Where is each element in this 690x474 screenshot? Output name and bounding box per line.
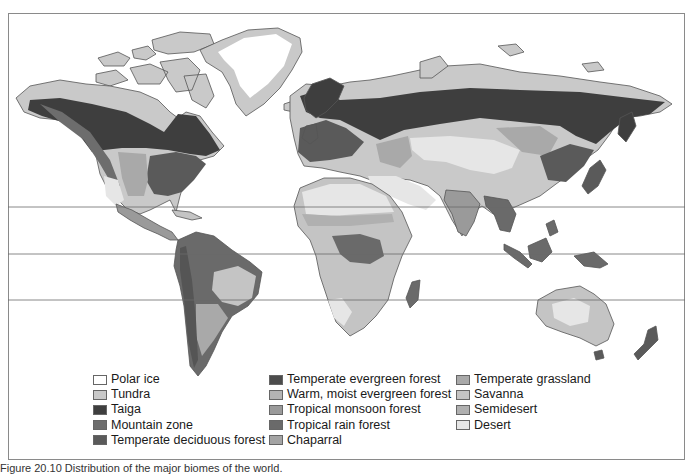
swatch-temperate-deciduous-forest	[93, 435, 107, 445]
swatch-semidesert	[456, 405, 470, 415]
swatch-warm-moist-evergreen-forest	[269, 390, 283, 400]
legend-column-2: Temperate evergreen forest Warm, moist e…	[269, 372, 451, 448]
swatch-tropical-monsoon-forest	[269, 405, 283, 415]
legend-item-polar-ice: Polar ice	[93, 372, 265, 387]
swatch-desert	[456, 420, 470, 430]
legend-item-taiga: Taiga	[93, 402, 265, 417]
japan	[582, 160, 606, 194]
legend-item-temperate-deciduous-forest: Temperate deciduous forest	[93, 433, 265, 448]
legend-item-savanna: Savanna	[456, 387, 591, 402]
legend-item-desert: Desert	[456, 418, 591, 433]
legend-item-mountain-zone: Mountain zone	[93, 418, 265, 433]
legend-item-semidesert: Semidesert	[456, 402, 591, 417]
swatch-savanna	[456, 390, 470, 400]
legend-item-tropical-rain-forest: Tropical rain forest	[269, 418, 451, 433]
figure-caption: Figure 20.10 Distribution of the major b…	[0, 462, 282, 474]
caribbean	[172, 210, 202, 220]
na-deciduous	[146, 152, 206, 196]
madagascar	[406, 280, 420, 308]
swatch-polar-ice	[93, 375, 107, 385]
swatch-temperate-evergreen-forest	[269, 375, 283, 385]
legend-item-temperate-evergreen-forest: Temperate evergreen forest	[269, 372, 451, 387]
tasmania	[594, 350, 604, 360]
borneo	[528, 238, 552, 262]
new-zealand	[634, 326, 658, 360]
swatch-temperate-grassland	[456, 375, 470, 385]
sumatra	[504, 244, 532, 268]
siberian-islands	[498, 44, 604, 72]
swatch-chaparral	[269, 435, 283, 445]
legend-item-tundra: Tundra	[93, 387, 265, 402]
swatch-mountain-zone	[93, 420, 107, 430]
legend-column-1: Polar ice Tundra Taiga Mountain zone Tem…	[93, 372, 265, 448]
swatch-tropical-rain-forest	[269, 420, 283, 430]
swatch-tundra	[93, 390, 107, 400]
legend-item-tropical-monsoon-forest: Tropical monsoon forest	[269, 402, 451, 417]
legend-item-warm-moist-evergreen-forest: Warm, moist evergreen forest	[269, 387, 451, 402]
philippines	[546, 220, 558, 236]
legend-column-3: Temperate grassland Savanna Semidesert D…	[456, 372, 591, 433]
swatch-taiga	[93, 405, 107, 415]
legend-item-temperate-grassland: Temperate grassland	[456, 372, 591, 387]
legend-item-chaparral: Chaparral	[269, 433, 451, 448]
